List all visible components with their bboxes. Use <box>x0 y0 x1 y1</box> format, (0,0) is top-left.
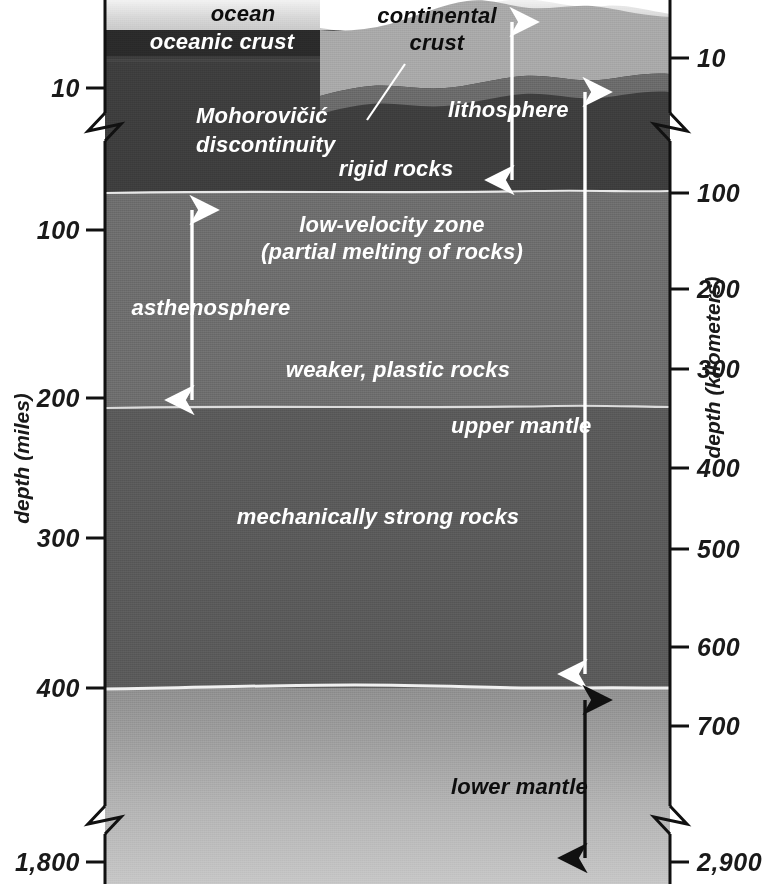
layer-mechanically-strong <box>105 407 670 688</box>
right-axis-ticks <box>670 58 689 862</box>
right-tick-label: 10 <box>697 46 726 71</box>
left-axis-ticks <box>86 88 105 862</box>
right-tick-label: 100 <box>697 181 740 206</box>
left-tick-label: 10 <box>0 76 80 101</box>
label-lithosphere: lithosphere <box>448 98 569 123</box>
label-moho-line2: discontinuity <box>196 133 336 158</box>
right-tick-label: 400 <box>697 456 740 481</box>
left-tick-label: 1,800 <box>0 850 80 875</box>
right-tick-label: 700 <box>697 714 740 739</box>
label-low-velocity-zone-line2: (partial melting of rocks) <box>261 240 523 265</box>
left-tick-label: 300 <box>0 526 80 551</box>
label-mechanically-strong-rocks: mechanically strong rocks <box>237 505 520 530</box>
left-tick-label: 100 <box>0 218 80 243</box>
label-asthenosphere: asthenosphere <box>131 296 290 321</box>
label-continental-crust-line2: crust <box>410 31 465 56</box>
boundary-upper-lower-mantle <box>105 683 670 691</box>
label-lower-mantle: lower mantle <box>451 775 588 800</box>
label-continental-crust-line1: continental <box>377 4 497 29</box>
label-oceanic-crust: oceanic crust <box>150 30 294 55</box>
right-tick-label: 500 <box>697 537 740 562</box>
earth-cross-section <box>105 0 670 884</box>
label-low-velocity-zone-line1: low-velocity zone <box>299 213 485 238</box>
figure-canvas: ocean oceanic crust continental crust Mo… <box>0 0 766 896</box>
label-weaker-plastic-rocks: weaker, plastic rocks <box>286 358 510 383</box>
left-axis-title: depth (miles) <box>11 393 32 524</box>
label-ocean: ocean <box>211 2 276 27</box>
boundary-lithosphere-asthenosphere <box>105 189 670 195</box>
left-tick-label: 400 <box>0 676 80 701</box>
boundary-asthenosphere-strong <box>105 404 670 410</box>
label-rigid-rocks: rigid rocks <box>339 157 454 182</box>
label-upper-mantle: upper mantle <box>451 414 592 439</box>
right-tick-label: 600 <box>697 635 740 660</box>
right-tick-label: 2,900 <box>697 850 762 875</box>
right-axis-title: depth (kilometers) <box>702 276 723 458</box>
label-moho-line1: Mohorovičić <box>196 104 328 129</box>
